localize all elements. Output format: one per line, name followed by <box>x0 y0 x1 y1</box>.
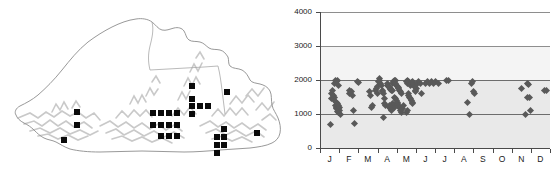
x-axis-month-label: M <box>362 155 374 164</box>
terrain-shading <box>18 52 276 143</box>
x-axis-month-label: M <box>400 155 412 164</box>
x-axis-tick-mark <box>435 149 436 153</box>
x-axis-month-label: J <box>324 155 336 164</box>
x-axis-tick-mark <box>493 149 494 153</box>
occurrence-record-marker <box>158 133 164 139</box>
occurrence-record-marker <box>74 109 80 115</box>
occurrence-record-marker <box>74 122 80 128</box>
occurrence-record-marker <box>221 134 227 140</box>
occurrence-record-marker <box>174 110 180 116</box>
occurrence-record-marker <box>197 103 203 109</box>
gridline <box>320 46 550 47</box>
x-axis-tick-mark <box>397 149 398 153</box>
x-axis-tick-mark <box>531 149 532 153</box>
occurrence-record-marker <box>174 122 180 128</box>
occurrence-record-marker <box>158 110 164 116</box>
x-axis-month-label: N <box>515 155 527 164</box>
x-axis-month-label: A <box>458 155 470 164</box>
occurrence-record-marker <box>189 83 195 89</box>
occurrence-record-marker <box>61 137 67 143</box>
occurrence-record-marker <box>214 134 220 140</box>
occurrence-record-marker <box>166 110 172 116</box>
bhutan-map-svg <box>0 0 290 172</box>
plot-background-band <box>320 12 550 46</box>
occurrence-record-marker <box>189 96 195 102</box>
occurrence-record-marker <box>224 89 230 95</box>
x-axis-tick-mark <box>378 149 379 153</box>
x-axis-tick-mark <box>339 149 340 153</box>
y-axis-tick-mark <box>316 12 320 13</box>
altitude-month-scatter-panel: 01000200030004000 JFMAMJJASOND <box>290 0 554 172</box>
y-axis-line <box>320 12 321 149</box>
occurrence-record-marker <box>166 133 172 139</box>
occurrence-record-marker <box>214 150 220 156</box>
occurrence-record-marker <box>189 111 195 117</box>
x-axis-month-label: J <box>419 155 431 164</box>
x-axis-tick-mark <box>320 149 321 153</box>
y-axis-tick-mark <box>316 80 320 81</box>
x-axis-month-label: D <box>534 155 546 164</box>
x-axis-month-label: F <box>343 155 355 164</box>
distribution-map-panel <box>0 0 290 172</box>
occurrence-record-marker <box>150 110 156 116</box>
x-axis-month-label: J <box>439 155 451 164</box>
occurrence-record-marker <box>158 122 164 128</box>
x-axis-month-label: S <box>477 155 489 164</box>
figure-root: 01000200030004000 JFMAMJJASOND <box>0 0 554 172</box>
x-axis-tick-mark <box>550 149 551 153</box>
occurrence-record-marker <box>166 122 172 128</box>
occurrence-record-marker <box>221 142 227 148</box>
x-axis-month-label: A <box>381 155 393 164</box>
occurrence-record-marker <box>150 122 156 128</box>
y-axis-tick-label: 1000 <box>294 110 312 118</box>
occurrence-record-marker <box>205 103 211 109</box>
occurrence-record-marker <box>254 130 260 136</box>
x-axis-tick-mark <box>454 149 455 153</box>
y-axis-tick-mark <box>316 114 320 115</box>
x-axis-tick-mark <box>512 149 513 153</box>
y-axis-ticks: 01000200030004000 <box>290 0 320 172</box>
occurrence-record-marker <box>189 103 195 109</box>
y-axis-tick-mark <box>316 46 320 47</box>
gridline <box>320 114 550 115</box>
plot-area <box>320 12 550 148</box>
x-axis-tick-mark <box>473 149 474 153</box>
x-axis-month-label: O <box>496 155 508 164</box>
plot-background-band <box>320 46 550 80</box>
x-axis-tick-mark <box>416 149 417 153</box>
y-axis-tick-label: 3000 <box>294 42 312 50</box>
occurrence-record-marker <box>214 142 220 148</box>
gridline <box>320 12 550 13</box>
y-axis-tick-label: 0 <box>308 144 312 152</box>
internal-boundaries <box>149 22 226 114</box>
occurrence-record-marker <box>174 133 180 139</box>
y-axis-tick-label: 2000 <box>294 76 312 84</box>
x-axis-tick-mark <box>358 149 359 153</box>
occurrence-record-marker <box>221 126 227 132</box>
y-axis-tick-label: 4000 <box>294 8 312 16</box>
